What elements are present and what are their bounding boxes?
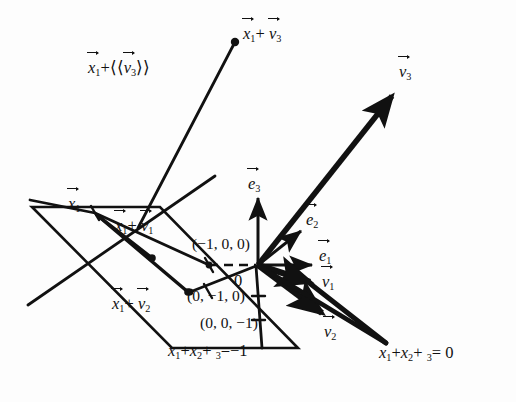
label-plane-equation-right: x1+x2+ 3= 0 xyxy=(379,345,453,363)
x1-vec-glyph: x1 xyxy=(88,60,100,78)
label-e1: e1 xyxy=(319,248,331,266)
label-coord-0-0-minus1: (0, 0, −1) xyxy=(200,315,258,331)
x1-plus-v3-dot xyxy=(231,38,239,46)
label-e3: e3 xyxy=(248,176,260,194)
plane-diagonal-line xyxy=(28,176,215,305)
v3-vec-glyph: v3 xyxy=(124,60,136,78)
label-x1-plus-v2: x1+ v2 xyxy=(112,296,150,314)
label-x1-plus-span-v3: x1+⟨⟨v3⟩⟩ xyxy=(88,60,150,78)
label-x1-plus-v1: x1+ v1 xyxy=(115,218,153,236)
label-plane-equation-left: x1+x2+ 3=−1 xyxy=(168,343,248,361)
figure-root: x1+⟨⟨v3⟩⟩ x1+ v3 v3 x1 x1+ v1 x1+ v2 e3 … xyxy=(0,0,516,402)
label-e2: e2 xyxy=(306,212,318,230)
label-coord-0-minus1-0: (0, −1, 0) xyxy=(187,288,245,304)
label-v2: v2 xyxy=(324,324,336,342)
label-x1: x1 xyxy=(68,196,80,214)
label-x1-plus-v3: x1+ v3 xyxy=(243,26,281,44)
x1-span-v3-line xyxy=(138,42,235,228)
label-coord-minus1-0-0: (−1, 0, 0) xyxy=(192,236,250,252)
label-v3: v3 xyxy=(399,64,411,82)
label-v1: v1 xyxy=(322,274,334,292)
